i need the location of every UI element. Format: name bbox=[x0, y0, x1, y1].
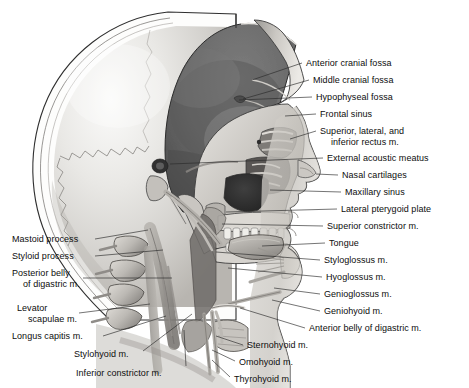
label-text: Posterior belly bbox=[12, 268, 70, 278]
label-anterior-belly-digastric: Anterior belly of digastric m. bbox=[309, 323, 421, 334]
label-text: Superior constrictor m. bbox=[327, 221, 419, 231]
label-nasal-cartilages: Nasal cartilages bbox=[342, 170, 407, 181]
label-text: Styloglossus m. bbox=[324, 255, 388, 265]
label-hyoglossus: Hyoglossus m. bbox=[326, 272, 386, 283]
label-text: Lateral pterygoid plate bbox=[341, 204, 431, 214]
label-text: Frontal sinus bbox=[320, 109, 372, 119]
label-anterior-cranial-fossa: Anterior cranial fossa bbox=[306, 58, 392, 69]
anatomical-plate: Anterior cranial fossaMiddle cranial fos… bbox=[0, 0, 469, 388]
label-superior-constrictor: Superior constrictor m. bbox=[327, 221, 419, 232]
label-text: Mastoid process bbox=[12, 234, 78, 244]
label-posterior-belly-digastric: Posterior bellyof digastric m. bbox=[12, 268, 80, 289]
label-levator-scapulae: Levatorscapulae m. bbox=[17, 303, 77, 324]
label-text: Anterior cranial fossa bbox=[306, 58, 392, 68]
label-text: Thyrohyoid m. bbox=[234, 374, 292, 384]
label-text-line2: scapulae m. bbox=[17, 314, 77, 325]
label-text: Sternohyoid m. bbox=[247, 340, 308, 350]
optic-canal bbox=[257, 140, 261, 144]
vertebra-c4 bbox=[106, 308, 142, 329]
label-thyrohyoid: Thyrohyoid m. bbox=[234, 374, 292, 385]
label-text: External acoustic meatus bbox=[327, 153, 429, 163]
label-middle-cranial-fossa: Middle cranial fossa bbox=[313, 75, 393, 86]
label-geniohyoid: Geniohyoid m. bbox=[324, 306, 383, 317]
label-text: Styloid process bbox=[12, 251, 74, 261]
label-text: Inferior constrictor m. bbox=[76, 368, 162, 378]
label-text: Genioglossus m. bbox=[324, 289, 392, 299]
label-frontal-sinus: Frontal sinus bbox=[320, 109, 372, 120]
label-inferior-constrictor: Inferior constrictor m. bbox=[76, 368, 162, 379]
calvaria-highlight bbox=[66, 44, 170, 128]
label-text: Geniohyoid m. bbox=[324, 306, 383, 316]
label-omohyoid: Omohyoid m. bbox=[239, 357, 293, 368]
label-external-acoustic-meatus: External acoustic meatus bbox=[327, 153, 429, 164]
label-genioglossus: Genioglossus m. bbox=[324, 289, 392, 300]
label-tongue: Tongue bbox=[329, 238, 359, 249]
label-text: Nasal cartilages bbox=[342, 170, 407, 180]
label-text: Middle cranial fossa bbox=[313, 75, 393, 85]
label-text: Omohyoid m. bbox=[239, 357, 293, 367]
label-maxillary-sinus: Maxillary sinus bbox=[345, 187, 405, 198]
label-text-line2: of digastric m. bbox=[12, 279, 80, 290]
label-text: Hypophyseal fossa bbox=[316, 92, 393, 102]
label-hypophyseal-fossa: Hypophyseal fossa bbox=[316, 92, 393, 103]
label-text-line2: inferior rectus m. bbox=[320, 137, 404, 148]
label-longus-capitis: Longus capitis m. bbox=[12, 331, 83, 342]
label-text: Maxillary sinus bbox=[345, 187, 405, 197]
label-lateral-pterygoid-plate: Lateral pterygoid plate bbox=[341, 204, 431, 215]
label-superior-lateral-inferior-rectus: Superior, lateral, andinferior rectus m. bbox=[320, 126, 404, 147]
label-text: Anterior belly of digastric m. bbox=[309, 323, 421, 333]
label-stylohyoid: Stylohyoid m. bbox=[74, 349, 129, 360]
label-sternohyoid: Sternohyoid m. bbox=[247, 340, 308, 351]
label-styloid-process: Styloid process bbox=[12, 251, 74, 262]
tongue bbox=[228, 235, 284, 260]
label-text: Tongue bbox=[329, 238, 359, 248]
label-styloglossus: Styloglossus m. bbox=[324, 255, 388, 266]
label-text: Hyoglossus m. bbox=[326, 272, 386, 282]
external-acoustic-meatus-group bbox=[152, 159, 168, 173]
label-text: Superior, lateral, and bbox=[320, 126, 404, 136]
label-text: Longus capitis m. bbox=[12, 331, 83, 341]
label-text: Stylohyoid m. bbox=[74, 349, 129, 359]
label-text: Levator bbox=[17, 303, 47, 313]
label-mastoid-process: Mastoid process bbox=[12, 234, 78, 245]
